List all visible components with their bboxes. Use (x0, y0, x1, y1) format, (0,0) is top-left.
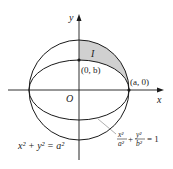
point-0-b-label: (0, b) (81, 65, 101, 75)
x-axis-arrow-icon (157, 88, 164, 93)
region-label: I (90, 48, 95, 59)
ellipse-plus: + (128, 134, 133, 144)
circle-equation: x² + y² = a² (17, 140, 65, 151)
ellipse-equation: x² a² + y² b² = 1 (117, 130, 159, 148)
ellipse-x-numerator: x² (117, 130, 124, 139)
point-a-0 (127, 88, 130, 91)
ellipse-y-numerator: y² (135, 130, 142, 139)
ellipse-rhs: = 1 (147, 134, 159, 144)
x-axis-label: x (156, 94, 162, 105)
y-axis-arrow-icon (77, 14, 82, 21)
point-a-0-label: (a, 0) (130, 77, 149, 87)
y-axis-label: y (68, 12, 74, 23)
ellipse-x-denominator: a² (118, 139, 125, 148)
origin-label: O (66, 93, 73, 104)
ellipse-y-denominator: b² (136, 139, 143, 148)
circle-ellipse-diagram: y x O I (0, b) (a, 0) x² + y² = a² x² a²… (0, 0, 173, 169)
point-0-b (77, 58, 80, 61)
